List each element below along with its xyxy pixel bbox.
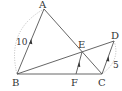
- length-label-cd: 5: [113, 60, 119, 70]
- segment-bd: [17, 41, 114, 74]
- label-e: E: [78, 39, 85, 50]
- segment-ac: [44, 9, 102, 74]
- parallel-arrow-icon-ab: [29, 39, 32, 45]
- label-d: D: [111, 30, 119, 41]
- label-b: B: [12, 77, 19, 88]
- geometry-diagram: A B C D E F 10 5: [0, 0, 122, 91]
- label-f: F: [71, 77, 78, 88]
- label-a: A: [38, 0, 47, 10]
- label-c: C: [98, 77, 106, 88]
- length-label-ab: 10: [16, 37, 28, 47]
